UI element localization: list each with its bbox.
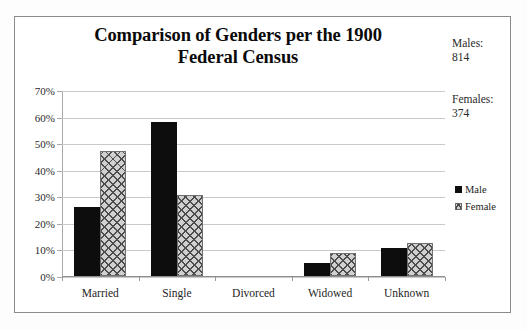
bar-unknown-female — [407, 243, 433, 276]
y-axis-label: 60% — [35, 112, 55, 124]
chart-title: Comparison of Genders per the 1900 Feder… — [38, 24, 438, 68]
bar-group: Widowed — [292, 90, 369, 276]
chart-title-line-1: Comparison of Genders per the 1900 — [94, 25, 382, 45]
bar-single-female — [177, 195, 203, 276]
females-label: Females: — [452, 92, 494, 106]
x-axis-label: Divorced — [215, 287, 292, 299]
bar-widowed-female — [330, 253, 356, 276]
chart-title-line-2: Federal Census — [178, 47, 298, 67]
gridline — [62, 277, 445, 278]
y-axis-label: 20% — [35, 218, 55, 230]
bar-group: Divorced — [215, 90, 292, 276]
bar-group: Single — [139, 90, 216, 276]
y-axis-label: 30% — [35, 191, 55, 203]
bar-married-female — [100, 151, 126, 276]
females-value: 374 — [452, 106, 494, 120]
x-axis-separator — [62, 277, 63, 281]
bar-unknown-male — [381, 248, 407, 276]
bar-married-male — [74, 207, 100, 276]
x-axis-separator — [368, 277, 369, 281]
legend-swatch-male-icon — [455, 186, 462, 193]
x-axis-label: Married — [62, 287, 139, 299]
bar-group: Married — [62, 90, 139, 276]
x-axis-separator — [445, 277, 446, 281]
legend-item-female: Female — [455, 198, 496, 215]
x-axis-separator — [139, 277, 140, 281]
legend-item-male: Male — [455, 181, 496, 198]
y-axis-label: 40% — [35, 165, 55, 177]
y-axis-label: 70% — [35, 85, 55, 97]
x-axis-separator — [215, 277, 216, 281]
y-axis-label: 0% — [40, 271, 55, 283]
plot-area: 0%10%20%30%40%50%60%70%MarriedSingleDivo… — [62, 91, 445, 277]
y-axis-label: 10% — [35, 244, 55, 256]
x-axis-label: Unknown — [368, 287, 445, 299]
x-axis-label: Widowed — [292, 287, 369, 299]
x-axis-separator — [292, 277, 293, 281]
legend-label-male: Male — [465, 181, 487, 198]
males-annotation: Males: 814 — [452, 36, 483, 64]
x-axis-label: Single — [139, 287, 216, 299]
legend-swatch-female-icon — [455, 203, 462, 210]
bar-widowed-male — [304, 263, 330, 276]
bar-group: Unknown — [368, 90, 445, 276]
chart-image: Comparison of Genders per the 1900 Feder… — [0, 0, 527, 330]
chart-legend: Male Female — [455, 181, 496, 215]
legend-label-female: Female — [465, 198, 496, 215]
y-axis-label: 50% — [35, 138, 55, 150]
females-annotation: Females: 374 — [452, 92, 494, 120]
bar-single-male — [151, 122, 177, 276]
males-label: Males: — [452, 36, 483, 50]
males-value: 814 — [452, 50, 483, 64]
